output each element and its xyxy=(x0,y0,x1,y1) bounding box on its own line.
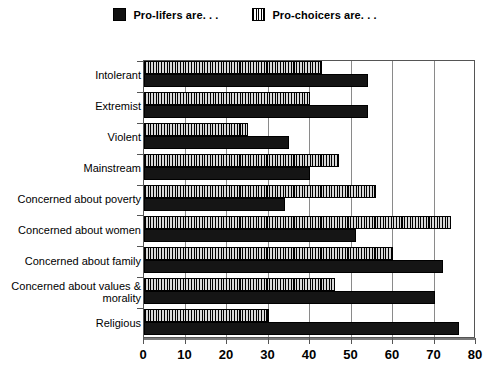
bar-pro-lifers xyxy=(144,105,368,118)
x-axis-tick xyxy=(392,338,393,344)
chart-category-row: Intolerant xyxy=(0,60,490,91)
y-axis-tick xyxy=(137,61,143,62)
x-axis-tick xyxy=(475,338,476,344)
y-axis-tick xyxy=(137,246,143,247)
legend-label-pro-choicers: Pro-choicers are. . . xyxy=(272,9,376,21)
x-axis-tick xyxy=(434,338,435,344)
chart-category-row: Concerned about values & morality xyxy=(0,276,490,307)
y-axis-tick xyxy=(137,154,143,155)
bar-pro-lifers xyxy=(144,198,285,211)
y-axis-category-label: Concerned about poverty xyxy=(0,193,141,205)
bar-pro-choicers xyxy=(144,154,339,167)
bar-pro-lifers xyxy=(144,74,368,87)
bar-pro-choicers xyxy=(144,61,322,74)
bar-pro-choicers xyxy=(144,247,393,260)
y-axis-tick xyxy=(137,308,143,309)
x-axis-tick-label: 10 xyxy=(177,347,191,362)
bar-pro-choicers xyxy=(144,123,248,136)
y-axis-tick xyxy=(137,92,143,93)
x-axis-tick xyxy=(226,338,227,344)
chart-category-row: Mainstream xyxy=(0,153,490,184)
bar-pro-lifers xyxy=(144,136,289,149)
bar-pro-choicers xyxy=(144,216,451,229)
y-axis-tick xyxy=(137,123,143,124)
x-axis-tick-label: 30 xyxy=(260,347,274,362)
bar-pro-lifers xyxy=(144,167,310,180)
y-axis-category-label: Religious xyxy=(0,317,141,329)
x-axis-tick xyxy=(351,338,352,344)
bar-pro-lifers xyxy=(144,229,356,242)
x-axis-tick-label: 20 xyxy=(219,347,233,362)
y-axis-category-label: Concerned about women xyxy=(0,224,141,236)
bar-chart: IntolerantExtremistViolentMainstreamConc… xyxy=(0,55,490,390)
y-axis-category-label: Concerned about family xyxy=(0,255,141,267)
hatched-square-icon xyxy=(252,8,265,21)
x-axis-tick-label: 50 xyxy=(343,347,357,362)
chart-category-row: Violent xyxy=(0,122,490,153)
x-axis-tick-label: 70 xyxy=(426,347,440,362)
x-axis-tick-label: 0 xyxy=(139,347,146,362)
x-axis-tick xyxy=(309,338,310,344)
chart-category-row: Extremist xyxy=(0,91,490,122)
y-axis-category-label: Concerned about values & morality xyxy=(0,280,141,304)
bar-pro-lifers xyxy=(144,260,443,273)
x-axis-tick-label: 60 xyxy=(385,347,399,362)
legend-entry-pro-choicers: Pro-choicers are. . . xyxy=(252,8,376,21)
bar-pro-lifers xyxy=(144,322,459,335)
y-axis-category-label: Violent xyxy=(0,131,141,143)
y-axis-tick xyxy=(137,277,143,278)
y-axis-category-label: Mainstream xyxy=(0,162,141,174)
bar-pro-lifers xyxy=(144,291,435,304)
y-axis-category-label: Intolerant xyxy=(0,69,141,81)
bar-pro-choicers xyxy=(144,278,335,291)
chart-category-row: Concerned about family xyxy=(0,245,490,276)
chart-category-row: Concerned about women xyxy=(0,214,490,245)
x-axis-tick xyxy=(143,338,144,344)
chart-category-row: Religious xyxy=(0,307,490,338)
bar-pro-choicers xyxy=(144,185,376,198)
bar-pro-choicers xyxy=(144,309,269,322)
chart-category-row: Concerned about poverty xyxy=(0,184,490,215)
y-axis-tick xyxy=(137,215,143,216)
solid-black-square-icon xyxy=(113,8,126,21)
x-axis-tick-label: 80 xyxy=(468,347,482,362)
legend-entry-pro-lifers: Pro-lifers are. . . xyxy=(113,8,218,21)
x-axis-tick-label: 40 xyxy=(302,347,316,362)
bar-pro-choicers xyxy=(144,92,310,105)
x-axis-tick xyxy=(185,338,186,344)
y-axis-tick xyxy=(137,185,143,186)
y-axis-category-label: Extremist xyxy=(0,100,141,112)
chart-legend: Pro-lifers are. . . Pro-choicers are. . … xyxy=(0,8,490,21)
legend-label-pro-lifers: Pro-lifers are. . . xyxy=(133,9,218,21)
x-axis-tick xyxy=(268,338,269,344)
